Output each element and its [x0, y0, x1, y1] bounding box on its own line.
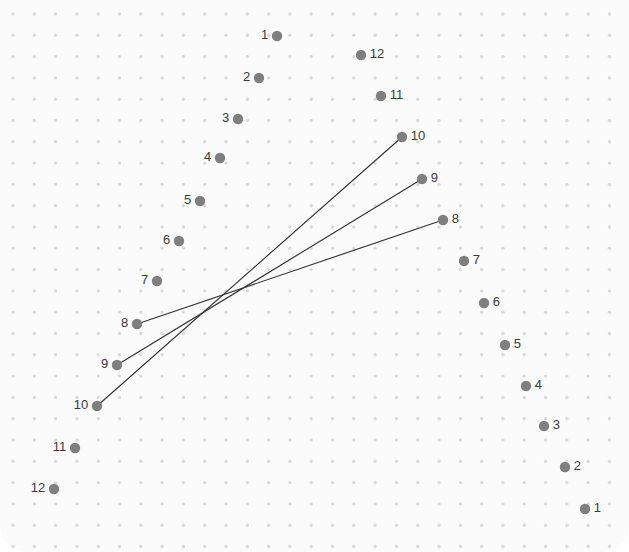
node-label: 4: [204, 149, 211, 164]
node-label: 10: [411, 128, 425, 143]
node-label: 2: [243, 69, 250, 84]
node-dot[interactable]: [272, 31, 282, 41]
node-label: 9: [101, 356, 108, 371]
node-dot[interactable]: [254, 73, 264, 83]
node-dot[interactable]: [152, 276, 162, 286]
node-label: 10: [74, 397, 88, 412]
node-dot[interactable]: [49, 484, 59, 494]
node-label: 12: [31, 480, 45, 495]
node-label: 7: [473, 252, 480, 267]
diagram-stage: 123456789101112121110987654321: [0, 0, 629, 552]
node-label: 8: [452, 211, 459, 226]
node-dot[interactable]: [215, 153, 225, 163]
node-label: 7: [141, 272, 148, 287]
node-label: 5: [514, 336, 521, 351]
node-label: 1: [594, 500, 601, 515]
node-dot[interactable]: [356, 50, 366, 60]
node-dot[interactable]: [376, 91, 386, 101]
node-dot[interactable]: [397, 132, 407, 142]
node-label: 12: [370, 46, 384, 61]
node-dot[interactable]: [92, 401, 102, 411]
node-label: 3: [222, 110, 229, 125]
node-label: 6: [163, 232, 170, 247]
node-label: 11: [53, 439, 67, 454]
node-dot[interactable]: [233, 114, 243, 124]
node-label: 8: [121, 315, 128, 330]
node-dot[interactable]: [438, 215, 448, 225]
node-dot[interactable]: [479, 298, 489, 308]
node-dot[interactable]: [195, 196, 205, 206]
edge-layer: [0, 0, 629, 552]
node-label: 9: [431, 170, 438, 185]
node-label: 2: [574, 458, 581, 473]
node-dot[interactable]: [500, 340, 510, 350]
node-label: 4: [535, 377, 542, 392]
node-dot[interactable]: [112, 360, 122, 370]
node-dot[interactable]: [417, 174, 427, 184]
node-label: 11: [390, 87, 404, 102]
node-dot[interactable]: [174, 236, 184, 246]
node-dot[interactable]: [560, 462, 570, 472]
node-dot[interactable]: [459, 256, 469, 266]
node-dot[interactable]: [132, 319, 142, 329]
node-label: 5: [184, 192, 191, 207]
node-dot[interactable]: [580, 504, 590, 514]
node-label: 6: [493, 294, 500, 309]
node-label: 1: [261, 27, 268, 42]
node-dot[interactable]: [539, 421, 549, 431]
node-label: 3: [553, 417, 560, 432]
edge-9-to-9[interactable]: [117, 179, 422, 365]
node-dot[interactable]: [521, 381, 531, 391]
node-dot[interactable]: [70, 443, 80, 453]
